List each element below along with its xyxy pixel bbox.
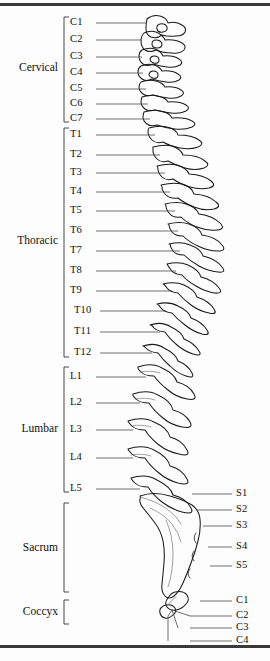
level-label-right-s3: S3 <box>236 520 248 531</box>
level-label-c7: C7 <box>70 113 94 124</box>
level-label-l5: L5 <box>70 483 94 494</box>
level-label-t5: T5 <box>70 205 94 216</box>
level-label-right-s2: S2 <box>236 504 248 515</box>
region-label-coccyx: Coccyx <box>23 606 58 618</box>
region-label-lumbar: Lumbar <box>22 423 58 435</box>
level-label-t2: T2 <box>70 149 94 160</box>
level-label-t11: T11 <box>74 326 98 337</box>
bracket-thoracic <box>64 128 69 357</box>
level-label-right-c1: C1 <box>236 595 249 606</box>
level-label-l1: L1 <box>70 371 94 382</box>
level-label-t12: T12 <box>74 347 98 358</box>
level-label-t7: T7 <box>70 245 94 256</box>
level-label-right-c4: C4 <box>236 635 249 646</box>
region-label-thoracic: Thoracic <box>17 235 58 247</box>
level-label-c3: C3 <box>70 51 94 62</box>
level-label-right-s4: S4 <box>236 541 248 552</box>
level-label-right-c2: C2 <box>236 610 249 621</box>
level-label-t3: T3 <box>70 167 94 178</box>
spine-diagram-figure: C1C2C3C4C5C6C7T1T2T3T4T5T6T7T8T9T10T11T1… <box>0 0 270 661</box>
level-label-c1: C1 <box>70 17 94 28</box>
level-label-l3: L3 <box>70 424 94 435</box>
level-label-right-s5: S5 <box>236 560 248 571</box>
level-label-l4: L4 <box>70 452 94 463</box>
level-label-t4: T4 <box>70 186 94 197</box>
level-label-l2: L2 <box>70 397 94 408</box>
level-label-right-s1: S1 <box>236 488 248 499</box>
level-label-t8: T8 <box>70 265 94 276</box>
region-label-sacrum: Sacrum <box>23 542 58 554</box>
level-label-c6: C6 <box>70 98 94 109</box>
level-label-c4: C4 <box>70 67 94 78</box>
level-label-t10: T10 <box>74 305 98 316</box>
coccyx-leader-cluster <box>168 610 190 641</box>
bracket-coccyx <box>64 600 69 624</box>
bracket-sacrum <box>64 503 69 592</box>
level-label-t9: T9 <box>70 285 94 296</box>
bracket-cervical <box>64 17 69 122</box>
level-label-t6: T6 <box>70 225 94 236</box>
level-label-c2: C2 <box>70 34 94 45</box>
level-label-right-c3: C3 <box>236 622 249 633</box>
level-label-t1: T1 <box>70 129 94 140</box>
level-label-c5: C5 <box>70 83 94 94</box>
bracket-lumbar <box>64 367 69 492</box>
annotation-leaders-and-brackets <box>0 0 270 661</box>
region-label-cervical: Cervical <box>19 62 58 74</box>
